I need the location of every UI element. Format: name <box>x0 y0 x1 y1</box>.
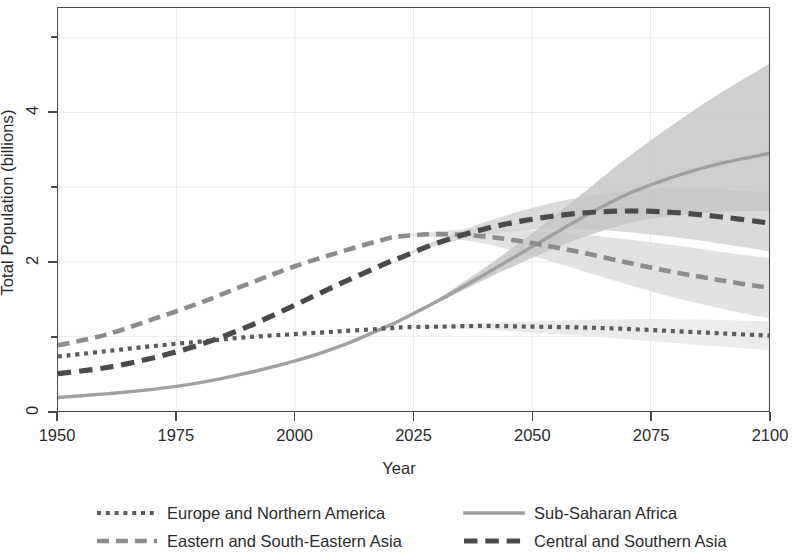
x-tick-label: 1950 <box>26 426 88 445</box>
x-tick-mark <box>650 412 652 421</box>
legend-key-icon <box>463 506 525 520</box>
plot-canvas <box>58 8 769 411</box>
x-axis-title: Year <box>0 459 798 478</box>
legend-entry[interactable]: Central and Southern Asia <box>441 527 756 555</box>
x-tick-mark <box>532 412 534 421</box>
x-tick-mark <box>175 412 177 421</box>
y-tick-label: 2 <box>23 250 42 272</box>
x-tick-label: 2100 <box>739 426 798 445</box>
legend-label: Eastern and South-Eastern Asia <box>167 532 402 551</box>
legend-entry[interactable]: Europe and Northern America <box>96 499 431 527</box>
legend-label: Central and Southern Asia <box>534 532 727 551</box>
y-tick-label: 4 <box>23 100 42 122</box>
y-tick-label: 0 <box>23 400 42 422</box>
chart-legend: Europe and Northern AmericaSub-Saharan A… <box>96 499 756 557</box>
legend-key-icon <box>463 534 525 548</box>
x-tick-label: 2050 <box>501 426 563 445</box>
x-tick-mark <box>769 412 771 421</box>
plot-area <box>57 7 770 412</box>
y-tick-mark-major <box>48 261 57 263</box>
x-tick-label: 1975 <box>145 426 207 445</box>
legend-entry[interactable]: Sub-Saharan Africa <box>441 499 756 527</box>
x-tick-mark <box>413 412 415 421</box>
x-tick-mark <box>56 412 58 421</box>
legend-entry[interactable]: Eastern and South-Eastern Asia <box>96 527 431 555</box>
x-tick-label: 2025 <box>383 426 445 445</box>
x-tick-label: 2075 <box>620 426 682 445</box>
y-axis-title: Total Population (billions) <box>0 0 20 405</box>
legend-label: Sub-Saharan Africa <box>534 504 677 523</box>
y-tick-mark-major <box>48 111 57 113</box>
legend-key-icon <box>96 506 158 520</box>
x-tick-mark <box>294 412 296 421</box>
legend-key-icon <box>96 534 158 548</box>
x-tick-label: 2000 <box>264 426 326 445</box>
legend-label: Europe and Northern America <box>167 504 385 523</box>
population-projection-chart: Total Population (billions) 024 19501975… <box>0 0 798 559</box>
